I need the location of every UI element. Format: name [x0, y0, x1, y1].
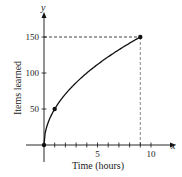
y-axis-variable: y	[40, 2, 46, 13]
y-axis-title: Items learned	[12, 61, 23, 115]
x-axis-variable: x	[170, 140, 176, 151]
reference-lines	[44, 37, 140, 145]
y-tick-label: 150	[26, 32, 40, 42]
chart: 51050100150 Items learned Time (hours) x…	[0, 0, 182, 177]
data-point	[42, 143, 46, 147]
y-tick-label: 50	[30, 104, 40, 114]
data-point	[53, 107, 57, 111]
data-point	[138, 35, 142, 39]
x-tick-label: 10	[147, 149, 157, 159]
x-axis-title: Time (hours)	[72, 160, 124, 172]
axes	[26, 12, 176, 162]
curve	[44, 37, 140, 145]
marked-points	[42, 35, 143, 147]
curve-line	[44, 37, 140, 145]
y-tick-label: 100	[26, 68, 40, 78]
x-tick-label: 5	[95, 149, 100, 159]
